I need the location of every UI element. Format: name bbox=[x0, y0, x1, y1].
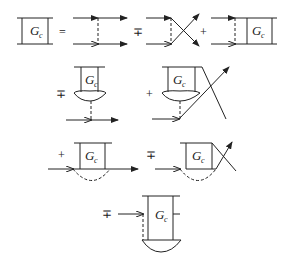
term-crossed-exchange bbox=[146, 14, 199, 46]
box-subscript: c bbox=[201, 156, 205, 165]
box-subscript: c bbox=[94, 156, 98, 165]
term-gc-dashed-cap: G c bbox=[118, 196, 181, 252]
feynman-diagram: G c = ∓ + G c ∓ G c bbox=[0, 0, 282, 255]
box-subscript: c bbox=[182, 80, 186, 89]
term-gc-crossed-loop: G c bbox=[155, 142, 236, 181]
minus-plus-sign: ∓ bbox=[133, 25, 143, 39]
minus-plus-sign: ∓ bbox=[102, 207, 112, 221]
box-subscript: c bbox=[261, 31, 265, 40]
box-subscript: c bbox=[94, 80, 98, 89]
minus-plus-sign: ∓ bbox=[56, 87, 66, 101]
term-gc-cap-crossed: G c bbox=[152, 67, 229, 119]
term-gc-cap-propagator: G c bbox=[66, 67, 118, 120]
term-gc-box-lhs: G c bbox=[17, 18, 53, 44]
plus-sign: + bbox=[146, 87, 153, 101]
box-subscript: c bbox=[164, 215, 168, 224]
term-exchange-gc-box: G c bbox=[211, 18, 277, 44]
plus-sign: + bbox=[58, 148, 65, 162]
equals-sign: = bbox=[59, 25, 66, 39]
box-subscript: c bbox=[39, 31, 43, 40]
plus-sign: + bbox=[200, 25, 207, 39]
minus-plus-sign: ∓ bbox=[146, 148, 156, 162]
term-ladder-exchange bbox=[73, 18, 127, 44]
